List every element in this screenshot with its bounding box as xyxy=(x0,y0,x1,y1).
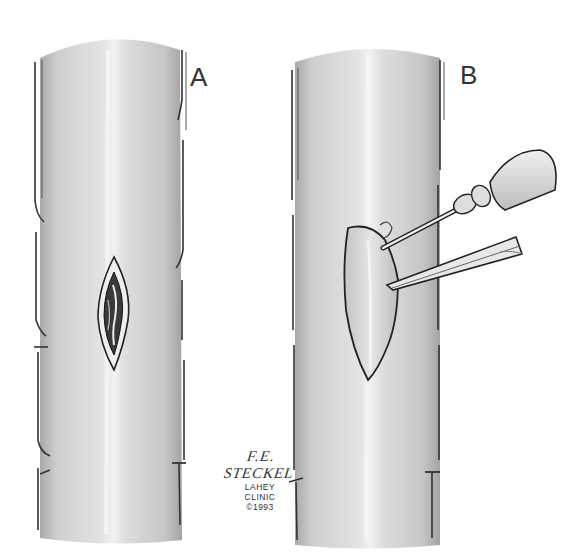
vessel-a xyxy=(34,39,186,543)
copyright-text: ©1993 xyxy=(210,502,310,512)
institution-line-1: LAHEY xyxy=(210,482,310,492)
artist-name: F.E. STECKEL xyxy=(208,448,313,482)
panel-label-b: B xyxy=(460,60,477,91)
panel-label-a: A xyxy=(190,62,207,93)
institution-line-2: CLINIC xyxy=(210,492,310,502)
artist-signature: F.E. STECKEL LAHEY CLINIC ©1993 xyxy=(210,448,310,512)
vessel-b xyxy=(289,49,556,549)
